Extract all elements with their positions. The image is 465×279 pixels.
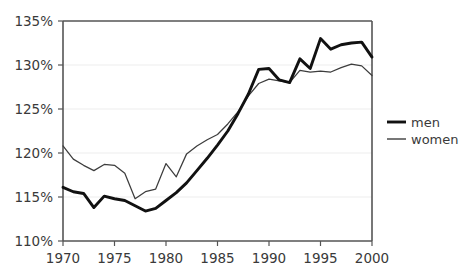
legend-label-women: women [411,132,459,147]
x-axis-tick-label: 2000 [355,250,389,266]
x-axis-tick-label: 1970 [46,250,80,266]
x-axis-tick-label: 1980 [149,250,183,266]
y-axis-tick-label: 135% [14,13,53,29]
x-axis-tick-label: 1985 [200,250,234,266]
chart-canvas: 110%115%120%125%130%135% 197019751980198… [0,0,465,279]
line-chart: 110%115%120%125%130%135% 197019751980198… [0,0,465,279]
legend-label-men: men [411,115,440,130]
x-axis-tick-label: 1990 [252,250,286,266]
y-axis-tick-label: 125% [14,101,53,117]
plot-area-background [63,21,372,241]
legend-entry-women[interactable]: women [387,132,459,147]
y-axis-tick-label: 110% [14,233,53,249]
y-axis-tick-label: 120% [14,145,53,161]
y-axis-tick-label: 130% [14,57,53,73]
x-axis-tick-label: 1995 [303,250,337,266]
y-axis: 110%115%120%125%130%135% [14,13,63,249]
x-axis-tick-label: 1975 [97,250,131,266]
y-axis-tick-label: 115% [14,189,53,205]
x-axis: 1970197519801985199019952000 [46,241,389,266]
legend: men women [387,115,459,147]
legend-entry-men[interactable]: men [387,115,440,130]
